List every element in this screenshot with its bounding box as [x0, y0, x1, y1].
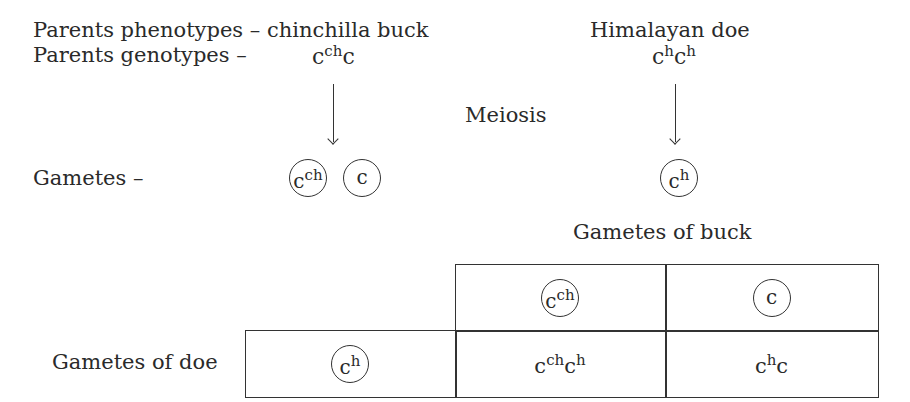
doe-genotype: chch [652, 45, 696, 71]
punnett-offspring-cell: chc [665, 330, 878, 398]
punnett-col-gamete-cch: cch [541, 279, 579, 317]
buck-gamete-c: c [343, 159, 381, 197]
allele-superscript: h [664, 42, 674, 60]
punnett-col-gamete-c: c [753, 279, 791, 317]
gametes-label: Gametes – [33, 166, 143, 190]
allele-base: c [776, 354, 788, 378]
gametes-of-buck-label: Gametes of buck [573, 220, 752, 244]
allele-superscript: ch [305, 166, 323, 184]
doe-phenotype: Himalayan doe [590, 18, 750, 42]
allele-base: c [356, 165, 367, 189]
allele-superscript: ch [546, 351, 564, 369]
gametes-of-doe-label: Gametes of doe [52, 350, 218, 374]
allele-base: c [545, 289, 556, 313]
parents-phenotypes-label: Parents phenotypes – chinchilla buck [33, 18, 429, 42]
punnett-col-header-cell: cch [455, 264, 665, 331]
allele-superscript: h [351, 352, 361, 370]
allele-base: c [652, 44, 664, 69]
allele-base: c [340, 355, 351, 379]
punnett-row-header-cell: ch [245, 330, 455, 398]
punnett-row-gamete-ch: ch [331, 345, 369, 383]
allele-base: c [674, 44, 686, 69]
allele-superscript: ch [557, 286, 575, 304]
allele-superscript: h [680, 166, 690, 184]
meiosis-label: Meiosis [465, 103, 547, 127]
allele-base: c [564, 354, 576, 378]
doe-gamete-ch: ch [660, 159, 698, 197]
allele-base: c [312, 44, 324, 69]
buck-gamete-cch: cch [289, 159, 327, 197]
allele-superscript: ch [324, 42, 342, 60]
punnett-offspring-cell: cchch [455, 330, 665, 398]
allele-base: c [342, 44, 354, 69]
allele-superscript: h [767, 351, 777, 369]
allele-superscript: h [576, 351, 586, 369]
buck-genotype: cchc [312, 45, 355, 71]
allele-base: c [534, 354, 546, 378]
doe-meiosis-arrow-icon [675, 84, 676, 142]
allele-base: c [669, 169, 680, 193]
punnett-col-header-cell: c [665, 264, 878, 331]
allele-base: c [293, 169, 304, 193]
allele-superscript: h [686, 42, 696, 60]
allele-base: c [755, 354, 767, 378]
allele-base: c [766, 285, 777, 309]
buck-meiosis-arrow-icon [333, 84, 334, 142]
parents-genotypes-label: Parents genotypes – [33, 43, 247, 67]
